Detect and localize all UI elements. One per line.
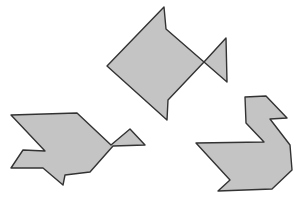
tangram-canvas [0,0,302,203]
tangram-figure [0,0,302,203]
fish-shape [107,7,227,120]
bird-shape [11,113,145,185]
swan-shape [196,96,292,191]
